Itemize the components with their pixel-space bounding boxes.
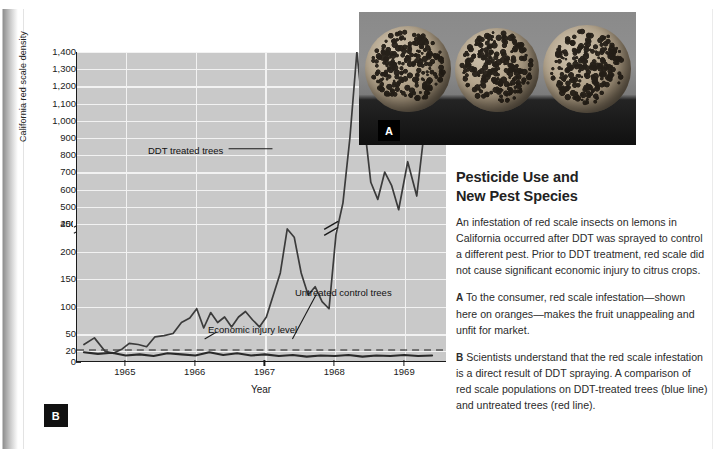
x-tick-mark [334,360,335,366]
scale-speckles-3 [543,25,631,113]
page-canvas: California red scale density 02050100150… [0,0,720,457]
page-title-line1: Pesticide Use and [456,169,578,185]
paragraph-b: B Scientists understand that the red sca… [456,349,708,413]
x-tick-mark [404,360,405,366]
y-tick-label: 900 [60,133,76,143]
x-tick-label: 1965 [114,366,135,377]
y-tick-label: 1,100 [52,99,76,109]
page-title: Pesticide Use and New Pest Species [456,168,708,205]
y-tick-label: 1,400 [52,47,76,57]
page-title-line2: New Pest Species [456,188,578,204]
sidebar-text-column: Pesticide Use and New Pest Species An in… [456,168,708,424]
scale-speckles-1 [365,26,451,112]
figure-badge-b: B [44,404,68,427]
annotation-economic-injury: Economic injury level [208,324,297,335]
paragraph-b-body: Scientists understand that the red scale… [456,351,707,411]
y-tick-label: 800 [60,150,76,160]
x-tick-label: 1969 [394,366,415,377]
x-tick-mark [124,360,125,366]
orange-fruit-2 [455,28,539,112]
page-top-margin [0,0,720,9]
photo-figure-a: A [359,12,636,145]
paragraph-a: A To the consumer, red scale infestation… [456,289,708,337]
orange-fruit-3 [543,25,631,113]
orange-fruit-1 [365,26,451,112]
x-axis-tick-labels: 19651966196719681969 [76,366,446,382]
page-bottom-margin [0,449,720,457]
y-axis-tick-labels: 020501001502002504005006007008009001,000… [28,22,76,352]
y-tick-label: 200 [60,247,76,257]
page-left-edge-shadow [0,0,18,457]
x-tick-mark [194,360,195,366]
y-tick-label: 1,300 [52,64,76,74]
series-line-untreated-control [84,352,432,356]
y-tick-label: 100 [60,302,76,312]
y-tick-mark [76,362,81,363]
x-axis-title: Year [76,384,446,395]
y-tick-label: 1,000 [52,116,76,126]
y-tick-label: 700 [60,167,76,177]
x-tick-label: 1966 [184,366,205,377]
y-tick-label: 150 [60,274,76,284]
paragraph-a-body: To the consumer, red scale infestation—s… [456,291,695,335]
x-tick-label: 1968 [324,366,345,377]
scale-speckles-2 [455,28,539,112]
annotation-ddt-treated: DDT treated trees [148,145,223,156]
page-right-rule [712,9,713,449]
y-tick-label: 20 [65,346,76,356]
y-axis-title: California red scale density [18,128,28,142]
y-tick-label: 50 [65,329,76,339]
figure-badge-a: A [378,120,400,141]
annotation-untreated-control: Untreated control trees [295,287,392,298]
x-tick-label: 1967 [254,366,275,377]
intro-paragraph: An infestation of red scale insects on l… [456,214,708,278]
y-tick-label: 500 [60,202,76,212]
y-tick-label: 1,200 [52,81,76,91]
x-tick-mark [264,360,265,366]
y-tick-label: 600 [60,185,76,195]
